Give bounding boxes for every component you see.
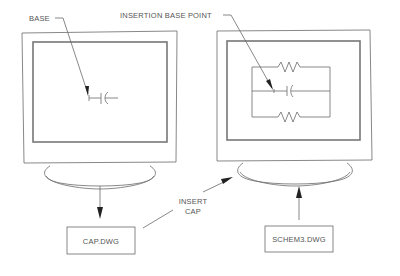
cap-dwg-file: CAP.DWG xyxy=(67,227,135,254)
right-monitor-bezel xyxy=(217,30,372,161)
right-monitor-screen xyxy=(227,41,360,140)
insert-cap-action: INSERT CAP xyxy=(143,177,233,228)
cap-label: CAP xyxy=(185,207,201,216)
right-monitor-stand xyxy=(238,163,353,186)
insert-label: INSERT xyxy=(179,197,208,206)
right-monitor: INSERTION BASE POINT xyxy=(120,11,372,186)
left-monitor-screen xyxy=(33,42,167,142)
base-leader xyxy=(55,18,89,96)
insertion-base-point-leader xyxy=(223,15,273,90)
right-up-arrow xyxy=(296,186,302,220)
left-monitor-stand xyxy=(45,166,156,189)
base-label: BASE xyxy=(29,14,50,23)
cap-dwg-label: CAP.DWG xyxy=(83,237,119,246)
circuit-schematic xyxy=(252,62,330,122)
left-down-arrow xyxy=(97,186,103,219)
capacitor-symbol xyxy=(89,92,118,104)
left-monitor-bezel xyxy=(22,31,177,163)
left-monitor: BASE xyxy=(22,14,177,189)
schem3-dwg-file: SCHEM3.DWG xyxy=(265,226,333,252)
insertion-base-point-label: INSERTION BASE POINT xyxy=(120,11,212,20)
schem3-dwg-label: SCHEM3.DWG xyxy=(272,235,326,244)
insert-block-diagram: BASE CAP.DWG INSERT CAP xyxy=(0,0,400,276)
